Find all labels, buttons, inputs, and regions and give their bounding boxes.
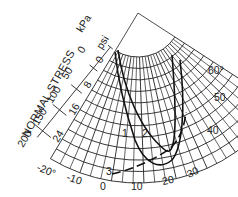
angle-tick-0: 0 bbox=[100, 180, 106, 192]
angle-tick-20: 20 bbox=[161, 173, 175, 187]
diagram-canvas: NORMAL STRESS kPa psi 0 50 100 150 200 0… bbox=[0, 0, 238, 197]
curve-label-2: 2 bbox=[142, 127, 148, 139]
angle-tick-30: 30 bbox=[185, 164, 201, 180]
unit-kpa: kPa bbox=[74, 12, 94, 34]
normal-stress-polar-diagram: NORMAL STRESS kPa psi 0 50 100 150 200 0… bbox=[0, 0, 238, 197]
curve-label-1: 1 bbox=[122, 127, 128, 139]
psi-tick-16: 16 bbox=[66, 101, 82, 117]
angle-radial bbox=[90, 55, 125, 176]
apex-lines bbox=[115, 13, 175, 51]
polar-grid bbox=[34, 13, 238, 183]
curve-label-3: 3 bbox=[106, 165, 112, 177]
unit-psi: psi bbox=[94, 33, 111, 51]
psi-tick-24: 24 bbox=[50, 128, 66, 144]
angle-radial bbox=[133, 57, 137, 183]
stress-arc bbox=[115, 37, 175, 57]
angle-tick-minus20: -20° bbox=[35, 161, 57, 179]
psi-tick-8: 8 bbox=[81, 79, 94, 90]
angle-tick-10: 10 bbox=[131, 180, 143, 192]
angle-tick-60: 60° bbox=[208, 64, 224, 76]
angle-tick-40: 40 bbox=[207, 124, 219, 136]
angle-tick-50: 50 bbox=[214, 91, 226, 103]
